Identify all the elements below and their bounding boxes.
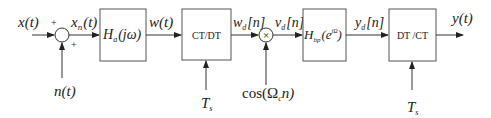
- signal-vd-label: vd[n]: [275, 15, 304, 32]
- output-y-label: y(t): [450, 10, 473, 27]
- block-dt-ct-label: DT /CT: [397, 30, 428, 41]
- signal-yd-label: yd[n]: [353, 15, 384, 32]
- signal-w-label: w(t): [149, 14, 173, 31]
- noise-label: n(t): [54, 83, 76, 100]
- ctdt-sampling-period-label: Ts: [201, 95, 212, 113]
- input-x-label: x(t): [17, 14, 39, 31]
- sum-plus-bottom: +: [71, 39, 77, 50]
- sum-plus-top: +: [51, 17, 57, 28]
- signal-wd-label: wd[n]: [233, 15, 265, 32]
- dtct-sampling-period-label: Ts: [407, 99, 418, 117]
- block-ct-dt-label: CT/DT: [192, 30, 221, 41]
- multiply-icon: ×: [263, 29, 269, 41]
- block-analog-filter-label: Ha(jω): [102, 27, 142, 44]
- summing-junction: [55, 28, 69, 42]
- signal-xn-label: xn(t): [70, 14, 97, 32]
- carrier-label: cos(Ωcn): [242, 85, 294, 103]
- block-diagram: x(t) + + n(t) xn(t) Ha(jω) w(t) CT/DT Ts…: [0, 0, 491, 118]
